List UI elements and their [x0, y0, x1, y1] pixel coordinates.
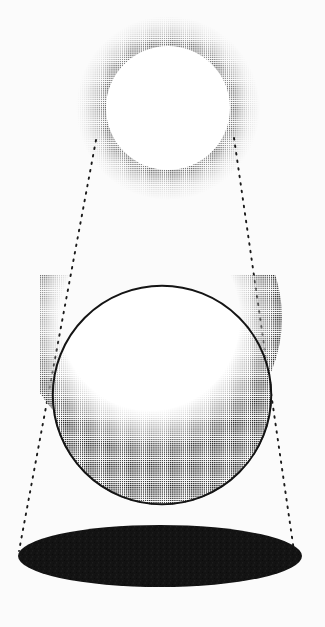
figure-canvas — [0, 0, 325, 627]
sphere — [40, 275, 290, 525]
cast-shadow — [18, 525, 302, 587]
light-source — [70, 10, 266, 206]
cast-shadow-ellipse — [18, 525, 302, 587]
light-shadow-diagram — [0, 0, 325, 627]
light-source-core — [106, 46, 230, 170]
